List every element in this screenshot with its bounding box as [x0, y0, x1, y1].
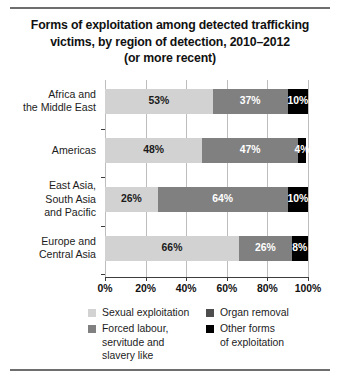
bar-segment-value-label: 37%: [240, 96, 261, 106]
legend-item-label: servitude and: [102, 336, 208, 349]
x-axis-tick: [186, 277, 187, 281]
bar-segment[interactable]: 48%: [105, 138, 202, 163]
bar-segment[interactable]: 64%: [158, 187, 288, 212]
bar-segment[interactable]: 26%: [105, 187, 158, 212]
legend-column-left: Sexual exploitationForced labour,servitu…: [88, 306, 208, 365]
bar-segment-value-label: 48%: [143, 145, 164, 155]
x-axis-tick: [308, 277, 309, 281]
plot-area: 53%37%10%48%47%4%26%64%10%66%26%8%: [105, 80, 308, 277]
category-label-line: Europe and: [4, 235, 96, 249]
bar-segment[interactable]: 47%: [202, 138, 297, 163]
bar-segment[interactable]: 66%: [105, 236, 239, 261]
bar-segment[interactable]: 4%: [298, 138, 306, 163]
grid-line: [308, 80, 309, 277]
bar-row: 53%37%10%: [105, 89, 308, 114]
legend-item[interactable]: Organ removal: [206, 306, 328, 319]
bar-segment-value-label: 26%: [121, 194, 142, 204]
category-label: Europe andCentral Asia: [4, 235, 96, 262]
x-axis-tick-label: 20%: [124, 283, 168, 294]
x-axis-tick: [267, 277, 268, 281]
chart-title-line-1: Forms of exploitation among detected tra…: [12, 17, 328, 34]
category-label-line: South Asia: [4, 193, 96, 207]
chart-title-line-3: (or more recent): [12, 50, 328, 67]
y-axis-tick: [101, 177, 105, 178]
category-label-line: and Pacific: [4, 206, 96, 220]
bar-segment-value-label: 53%: [148, 96, 169, 106]
legend-item-label: of exploitation: [220, 336, 328, 349]
bar-segment-value-label: 66%: [162, 243, 183, 253]
bar-segment-value-label: 8%: [292, 243, 307, 253]
category-label-line: Central Asia: [4, 248, 96, 262]
legend-item[interactable]: Forced labour,servitude andslavery like: [88, 322, 208, 362]
category-label-line: the Middle East: [4, 101, 96, 115]
legend-item-label: Sexual exploitation: [102, 306, 208, 319]
legend-swatch-icon: [206, 325, 214, 333]
legend-item[interactable]: Sexual exploitation: [88, 306, 208, 319]
chart-figure: Forms of exploitation among detected tra…: [0, 0, 340, 385]
x-axis-tick: [146, 277, 147, 281]
category-label-line: East Asia,: [4, 179, 96, 193]
y-axis-tick: [101, 274, 105, 275]
category-label: East Asia,South Asiaand Pacific: [4, 179, 96, 220]
x-axis-tick-label: 0%: [83, 283, 127, 294]
legend-swatch-icon: [88, 309, 96, 317]
legend-item[interactable]: Other formsof exploitation: [206, 322, 328, 349]
x-axis-tick-label: 60%: [205, 283, 249, 294]
y-axis-tick: [101, 226, 105, 227]
x-axis-tick-label: 80%: [245, 283, 289, 294]
bar-segment[interactable]: 10%: [288, 187, 308, 212]
legend-item-label: Other forms: [220, 322, 328, 335]
legend-swatch-icon: [206, 309, 214, 317]
legend-item-label: Forced labour,: [102, 322, 208, 335]
legend-swatch-icon: [88, 325, 96, 333]
bar-segment[interactable]: 53%: [105, 89, 213, 114]
category-label: Americas: [4, 144, 96, 158]
bar-segment-value-label: 64%: [212, 194, 233, 204]
bar-segment[interactable]: 8%: [292, 236, 308, 261]
x-axis-tick-label: 100%: [286, 283, 330, 294]
legend-item-label: Organ removal: [220, 306, 328, 319]
y-axis-tick: [101, 129, 105, 130]
bar-row: 66%26%8%: [105, 236, 308, 261]
bottom-divider-rule: [10, 369, 330, 371]
x-axis-line: [105, 277, 309, 278]
category-label-line: Americas: [4, 144, 96, 158]
bar-row: 48%47%4%: [105, 138, 308, 163]
x-axis-tick-label: 40%: [164, 283, 208, 294]
chart-title-line-2: victims, by region of detection, 2010–20…: [12, 34, 328, 51]
bar-segment[interactable]: 37%: [213, 89, 288, 114]
bar-segment-value-label: 26%: [255, 243, 276, 253]
bar-segment-value-label: 10%: [287, 194, 308, 204]
bar-segment[interactable]: 10%: [288, 89, 308, 114]
category-label: Africa andthe Middle East: [4, 88, 96, 115]
legend-column-right: Organ removalOther formsof exploitation: [206, 306, 328, 352]
bar-segment-value-label: 4%: [294, 145, 309, 155]
bar-segment-value-label: 47%: [240, 145, 261, 155]
top-divider-rule: [10, 7, 330, 9]
category-label-line: Africa and: [4, 88, 96, 102]
chart-title: Forms of exploitation among detected tra…: [12, 17, 328, 67]
legend-item-label: slavery like: [102, 349, 208, 362]
x-axis-tick: [105, 277, 106, 281]
bar-segment-value-label: 10%: [287, 96, 308, 106]
x-axis-tick: [227, 277, 228, 281]
bar-segment[interactable]: 26%: [239, 236, 292, 261]
bar-row: 26%64%10%: [105, 187, 308, 212]
